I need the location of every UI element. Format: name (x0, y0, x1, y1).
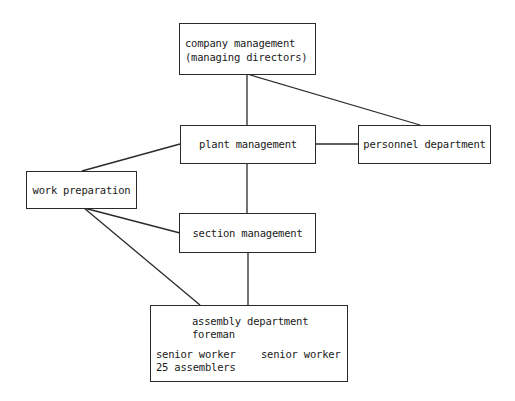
work-prep-label: work preparation (33, 184, 131, 197)
assembly-senior-worker-left: senior worker (156, 348, 236, 361)
node-company-management: company management (managing directors) (179, 23, 316, 75)
personnel-label: personnel department (363, 138, 485, 151)
assembly-assemblers: 25 assemblers (156, 361, 236, 374)
assembly-foreman: foreman (192, 328, 235, 341)
node-plant-management: plant management (180, 125, 316, 164)
section-label: section management (192, 227, 302, 240)
node-section-management: section management (179, 213, 316, 253)
node-assembly-department: assembly department foreman senior worke… (150, 305, 348, 382)
assembly-title: assembly department (192, 315, 308, 328)
node-personnel-department: personnel department (358, 125, 491, 164)
company-label-line1: company management (185, 37, 295, 50)
company-label-line2: (managing directors) (185, 51, 307, 64)
node-work-preparation: work preparation (26, 171, 137, 209)
edge-plant-workprep (82, 144, 180, 171)
edge-company-personnel (247, 74, 420, 125)
plant-label: plant management (199, 138, 297, 151)
assembly-senior-worker-right: senior worker (261, 348, 341, 361)
